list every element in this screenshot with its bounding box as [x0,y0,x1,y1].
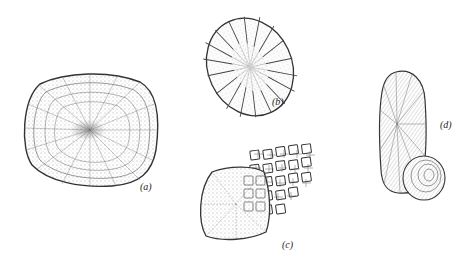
panel-b-label: (b) [272,96,284,108]
figure-illustration: (a) (b) [0,0,471,256]
panel-d-label: (d) [440,119,452,131]
panel-a-scale [24,74,158,186]
panel-a-label: (a) [140,181,152,193]
panel-b-scale [191,4,309,130]
panel-d-scale [380,71,445,200]
panel-c-plate [200,167,270,240]
panel-c-label: (c) [282,239,294,251]
